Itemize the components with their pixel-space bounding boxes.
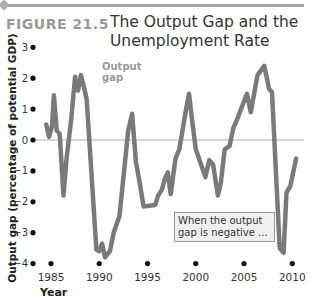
y-tick-dot xyxy=(30,261,35,266)
x-tick-dot xyxy=(193,261,198,266)
y-tick-dot xyxy=(30,168,35,173)
y-tick-label: 3 xyxy=(22,42,28,53)
series-label-output-gap: Output gap xyxy=(102,61,142,83)
y-tick-label: 0 xyxy=(22,135,28,146)
y-tick-dot xyxy=(30,137,35,142)
y-tick-dot xyxy=(30,230,35,235)
chart-canvas: 3210−1−2−3−4198519901995200020052010 xyxy=(0,0,312,306)
y-axis-label: Output gap (percentage of potential GDP) xyxy=(6,28,18,288)
y-tick-dot xyxy=(30,107,35,112)
y-tick-label: 1 xyxy=(22,104,28,115)
x-tick-label: 2000 xyxy=(182,271,209,283)
x-tick-label: 2010 xyxy=(279,271,306,283)
x-tick-dot xyxy=(290,261,295,266)
y-tick-label: 2 xyxy=(22,73,28,84)
y-tick-dot xyxy=(30,45,35,50)
x-tick-label: 2005 xyxy=(231,271,258,283)
y-tick-dot xyxy=(30,199,35,204)
x-tick-dot xyxy=(97,261,102,266)
y-tick-dot xyxy=(30,76,35,81)
x-tick-dot xyxy=(145,261,150,266)
x-tick-label: 1990 xyxy=(86,271,113,283)
x-axis-label: Year xyxy=(40,286,67,299)
annotation-note: When the output gap is negative ... xyxy=(174,212,275,242)
x-tick-dot xyxy=(241,261,246,266)
x-tick-dot xyxy=(48,261,53,266)
x-tick-label: 1985 xyxy=(38,271,65,283)
x-tick-label: 1995 xyxy=(134,271,161,283)
